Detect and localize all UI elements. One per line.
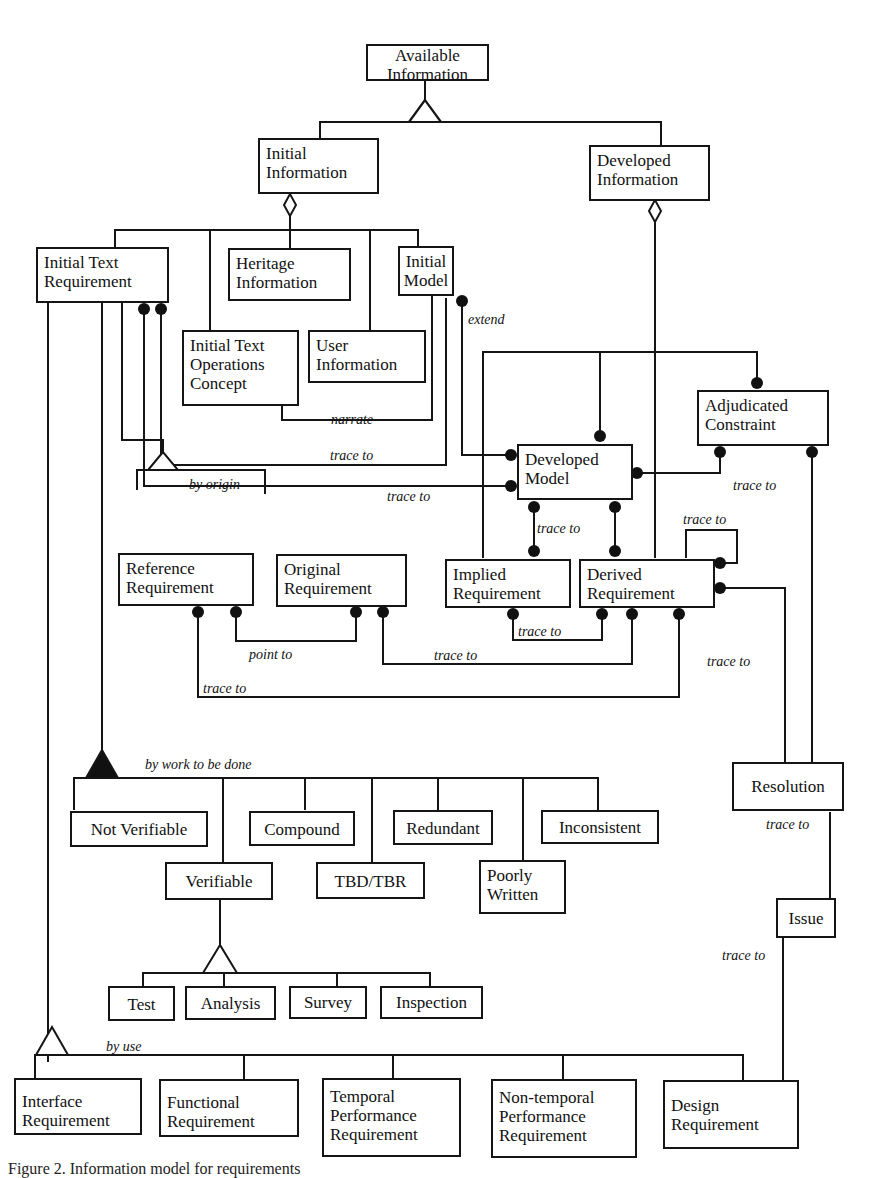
- label-extend: extend: [468, 312, 505, 328]
- aggregation-diamond-icon: [649, 200, 661, 222]
- generalization-triangle-icon: [409, 100, 441, 122]
- class-redundant: Redundant: [393, 810, 493, 845]
- class-inconsistent: Inconsistent: [541, 810, 659, 844]
- label-by-work-to-be-done: by work to be done: [145, 757, 252, 773]
- label-trace-to-itr-dev-model: trace to: [387, 489, 430, 505]
- class-not-verifiable: Not Verifiable: [70, 811, 208, 847]
- label-narrate: narrate: [331, 412, 373, 428]
- label-trace-to-adjudicated: trace to: [733, 478, 776, 494]
- class-initial-model: Initial Model: [398, 246, 454, 296]
- class-initial-information: Initial Information: [258, 138, 379, 194]
- label-by-use: by use: [106, 1039, 141, 1055]
- class-developed-information: Developed Information: [589, 145, 710, 201]
- class-initial-text-requirement: Initial Text Requirement: [36, 247, 169, 303]
- figure-caption: Figure 2. Information model for requirem…: [8, 1160, 300, 1178]
- label-trace-to-initial-model: trace to: [330, 448, 373, 464]
- label-trace-to-derived-resolution: trace to: [707, 654, 750, 670]
- label-trace-to-original-derived: trace to: [434, 648, 477, 664]
- class-verifiable: Verifiable: [165, 862, 273, 900]
- class-temporal-performance-requirement: Temporal Performance Requirement: [322, 1078, 461, 1157]
- label-trace-to-self: trace to: [683, 512, 726, 528]
- label-trace-to-resolution-issue: trace to: [766, 817, 809, 833]
- class-implied-requirement: Implied Requirement: [445, 559, 571, 608]
- class-resolution: Resolution: [732, 762, 844, 811]
- label-trace-to-reference-derived: trace to: [203, 681, 246, 697]
- aggregation-diamond-icon: [284, 194, 296, 216]
- class-non-temporal-performance-requirement: Non-temporal Performance Requirement: [491, 1079, 637, 1158]
- class-test: Test: [108, 986, 175, 1021]
- label-trace-to-issue-design: trace to: [722, 948, 765, 964]
- class-original-requirement: Original Requirement: [276, 554, 407, 607]
- class-poorly-written: Poorly Written: [479, 860, 566, 914]
- class-analysis: Analysis: [185, 986, 276, 1020]
- class-survey: Survey: [289, 986, 367, 1019]
- class-initial-text-operations-concept: Initial Text Operations Concept: [182, 330, 299, 406]
- class-interface-requirement: Interface Requirement: [14, 1078, 142, 1135]
- class-available-information: Available Information: [366, 44, 489, 81]
- label-by-origin: by origin: [189, 477, 240, 493]
- label-trace-to-dev-implied: trace to: [537, 521, 580, 537]
- class-reference-requirement: Reference Requirement: [118, 553, 254, 606]
- label-point-to: point to: [249, 647, 292, 663]
- class-developed-model: Developed Model: [517, 444, 633, 500]
- class-inspection: Inspection: [380, 986, 483, 1019]
- class-heritage-information: Heritage Information: [228, 248, 351, 301]
- class-user-information: User Information: [308, 330, 426, 383]
- class-adjudicated-constraint: Adjudicated Constraint: [697, 390, 829, 446]
- class-design-requirement: Design Requirement: [663, 1080, 799, 1149]
- class-tbd-tbr: TBD/TBR: [316, 862, 425, 899]
- class-derived-requirement: Derived Requirement: [579, 559, 715, 608]
- class-compound: Compound: [249, 811, 355, 846]
- class-functional-requirement: Functional Requirement: [159, 1079, 299, 1137]
- label-trace-to-implied-derived: trace to: [518, 624, 561, 640]
- class-issue: Issue: [776, 898, 836, 938]
